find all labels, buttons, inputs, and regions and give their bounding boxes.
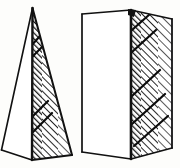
box-left-face (82, 10, 131, 159)
pyramid-front-edge (32, 8, 33, 160)
shape-box (82, 0, 178, 168)
box-face-hatching (128, 0, 178, 168)
illustration-canvas: Pyramid Rectangular Box Pyramid and Rect… (0, 0, 180, 168)
geometric-solids-drawing (0, 0, 180, 168)
